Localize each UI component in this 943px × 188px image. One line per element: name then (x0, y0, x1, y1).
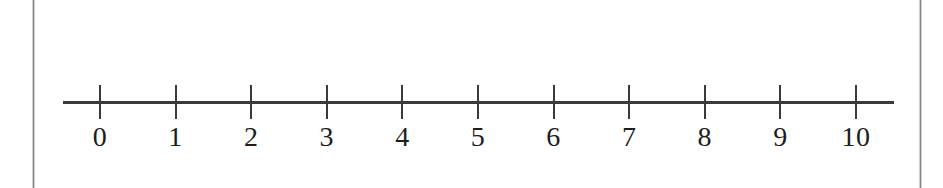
tick-label-7: 7 (599, 122, 659, 152)
number-line-figure: 012345678910 (0, 0, 943, 188)
tick-mark-7 (628, 85, 630, 119)
tick-label-1: 1 (146, 122, 206, 152)
tick-label-2: 2 (221, 122, 281, 152)
tick-mark-3 (326, 85, 328, 119)
tick-label-0: 0 (70, 122, 130, 152)
number-line: 012345678910 (0, 0, 943, 188)
tick-mark-10 (855, 85, 857, 119)
tick-label-5: 5 (448, 122, 508, 152)
tick-label-9: 9 (750, 122, 810, 152)
tick-label-8: 8 (675, 122, 735, 152)
tick-label-6: 6 (524, 122, 584, 152)
tick-label-3: 3 (297, 122, 357, 152)
tick-mark-1 (175, 85, 177, 119)
tick-label-10: 10 (826, 122, 886, 152)
tick-mark-6 (553, 85, 555, 119)
tick-mark-2 (250, 85, 252, 119)
tick-label-4: 4 (372, 122, 432, 152)
tick-mark-4 (401, 85, 403, 119)
tick-mark-8 (704, 85, 706, 119)
tick-mark-0 (99, 85, 101, 119)
tick-mark-9 (779, 85, 781, 119)
tick-mark-5 (477, 85, 479, 119)
